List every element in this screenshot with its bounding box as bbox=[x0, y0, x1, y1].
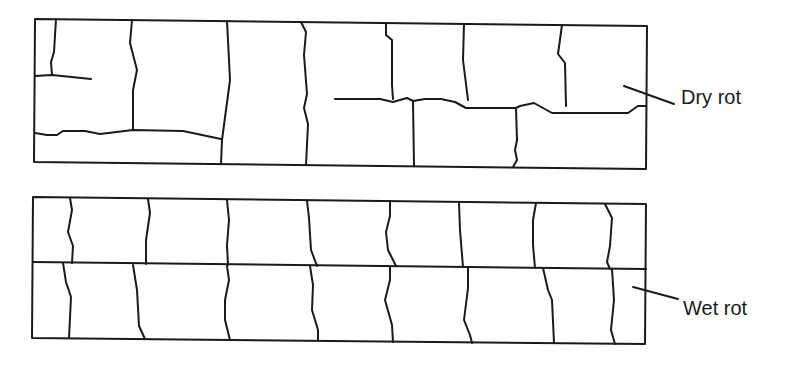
dry-rot-crack bbox=[463, 24, 468, 100]
dry-rot-crack bbox=[51, 19, 56, 75]
wet-rot-crack bbox=[459, 203, 463, 267]
wet-rot-crack bbox=[133, 265, 145, 339]
wet-rot-label: Wet rot bbox=[683, 297, 747, 320]
wet-rot-crack bbox=[385, 266, 393, 342]
wet-rot-crack bbox=[68, 198, 73, 263]
wet-rot-crack bbox=[543, 268, 554, 343]
wet-rot-crack bbox=[310, 266, 318, 341]
wet-rot-crack bbox=[464, 268, 472, 343]
wet-rot-leader-line bbox=[633, 287, 678, 299]
dry-rot-label: Dry rot bbox=[681, 86, 741, 109]
dry-rot-timber bbox=[34, 19, 674, 169]
dry-rot-horizontal-crack bbox=[35, 98, 646, 139]
wet-rot-crack bbox=[225, 266, 230, 340]
wet-rot-crack bbox=[63, 263, 71, 338]
dry-rot-leader-line bbox=[624, 86, 674, 104]
wet-rot-crack bbox=[605, 204, 612, 269]
wet-rot-board-joint bbox=[33, 262, 646, 269]
dry-rot-crack bbox=[130, 20, 137, 130]
wet-rot-crack bbox=[307, 201, 317, 266]
dry-rot-crack bbox=[221, 21, 230, 164]
rot-diagram bbox=[0, 0, 796, 372]
wet-rot-crack bbox=[227, 200, 229, 265]
dry-rot-crack bbox=[513, 108, 517, 167]
wet-rot-crack bbox=[611, 269, 615, 344]
dry-rot-crack bbox=[386, 24, 393, 99]
wet-rot-crack bbox=[386, 201, 396, 266]
wet-rot-crack bbox=[533, 203, 536, 268]
wet-rot-timber bbox=[32, 197, 678, 344]
dry-rot-outline bbox=[34, 19, 647, 169]
dry-rot-crack bbox=[301, 22, 308, 165]
dry-rot-crack bbox=[413, 101, 414, 166]
dry-rot-crack bbox=[558, 25, 566, 106]
dry-rot-crack bbox=[35, 75, 91, 79]
wet-rot-crack bbox=[146, 199, 150, 264]
